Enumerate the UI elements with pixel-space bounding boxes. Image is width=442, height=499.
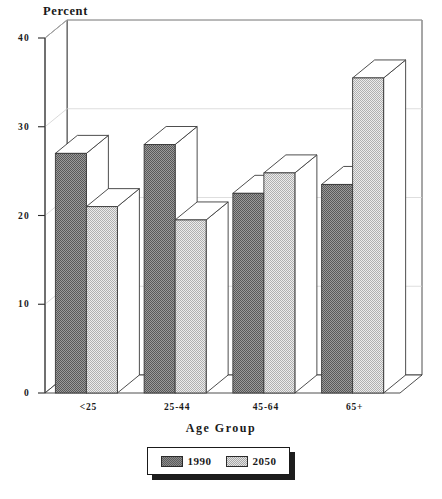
legend-label-2050: 2050 — [253, 455, 277, 467]
legend-entry-2050: 2050 — [226, 455, 277, 467]
bar-2050-<25 — [86, 189, 139, 393]
legend-swatch-1990-icon — [161, 456, 183, 467]
chart-legend: 1990 2050 — [147, 447, 290, 475]
bar-2050-45-64 — [264, 155, 317, 393]
legend-swatch-2050-icon — [226, 456, 248, 467]
x-tick-label-2: 45-64 — [253, 402, 279, 412]
x-tick-label-0: <25 — [80, 402, 97, 412]
legend-label-1990: 1990 — [188, 455, 212, 467]
bar-2050-65+ — [353, 60, 406, 393]
bar-chart: Percent 40 30 20 10 0 <2525-4445-6465+ A… — [0, 0, 442, 499]
bar-2050-25-44 — [175, 202, 228, 393]
legend-entry-1990: 1990 — [161, 455, 212, 467]
x-tick-label-1: 25-44 — [164, 402, 190, 412]
x-tick-label-3: 65+ — [346, 402, 363, 412]
axis-lines — [38, 38, 45, 393]
x-axis-title: Age Group — [0, 421, 442, 436]
